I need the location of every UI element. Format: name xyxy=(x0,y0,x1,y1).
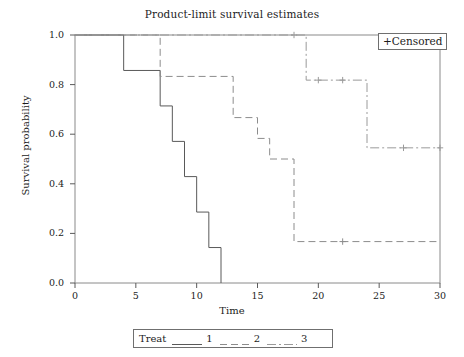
censored-marker xyxy=(291,32,297,38)
censored-marker xyxy=(339,238,345,244)
legend-key-label: 2 xyxy=(254,333,260,344)
censored-marker xyxy=(339,77,345,83)
x-tick-label: 30 xyxy=(428,290,452,301)
series-layer xyxy=(75,35,440,283)
x-tick-label: 25 xyxy=(367,290,391,301)
y-tick-label: 0.4 xyxy=(38,178,64,189)
x-tick-label: 15 xyxy=(246,290,270,301)
legend-line-swatch xyxy=(267,334,297,343)
y-tick-label: 0.2 xyxy=(38,227,64,238)
legend-key-label: 1 xyxy=(206,333,212,344)
legend-entry-treat-3: 3 xyxy=(267,333,311,344)
y-tick-label: 1.0 xyxy=(38,29,64,40)
x-tick-label: 5 xyxy=(124,290,148,301)
x-tick-label: 0 xyxy=(63,290,87,301)
x-tick-label: 20 xyxy=(306,290,330,301)
tick-marks xyxy=(70,35,440,288)
legend-entries: 123 xyxy=(172,333,314,344)
legend-key-label: 3 xyxy=(301,333,307,344)
censored-marker xyxy=(437,145,443,151)
legend-entry-treat-2: 2 xyxy=(220,333,264,344)
y-tick-label: 0.0 xyxy=(38,277,64,288)
axes-frame xyxy=(75,35,440,283)
censored-legend-label: +Censored xyxy=(383,35,442,47)
censored-marker xyxy=(400,145,406,151)
y-tick-label: 0.6 xyxy=(38,128,64,139)
x-axis-title: Time xyxy=(0,305,464,316)
legend-title: Treat xyxy=(139,333,166,344)
survival-plot-figure: Product-limit survival estimates 0.00.20… xyxy=(0,0,464,357)
legend-line-swatch xyxy=(220,334,250,343)
censored-marker xyxy=(315,77,321,83)
x-tick-label: 10 xyxy=(185,290,209,301)
plot-canvas xyxy=(0,0,464,357)
legend-entry-treat-1: 1 xyxy=(172,333,216,344)
treat-legend: Treat 123 xyxy=(133,329,333,348)
y-axis-title: Survival probability xyxy=(20,66,31,226)
censored-legend-box: +Censored xyxy=(378,33,447,50)
legend-line-swatch xyxy=(172,334,202,343)
survival-step-curve-treat-1 xyxy=(75,35,221,283)
y-tick-label: 0.8 xyxy=(38,79,64,90)
survival-step-curve-treat-2 xyxy=(75,35,440,242)
